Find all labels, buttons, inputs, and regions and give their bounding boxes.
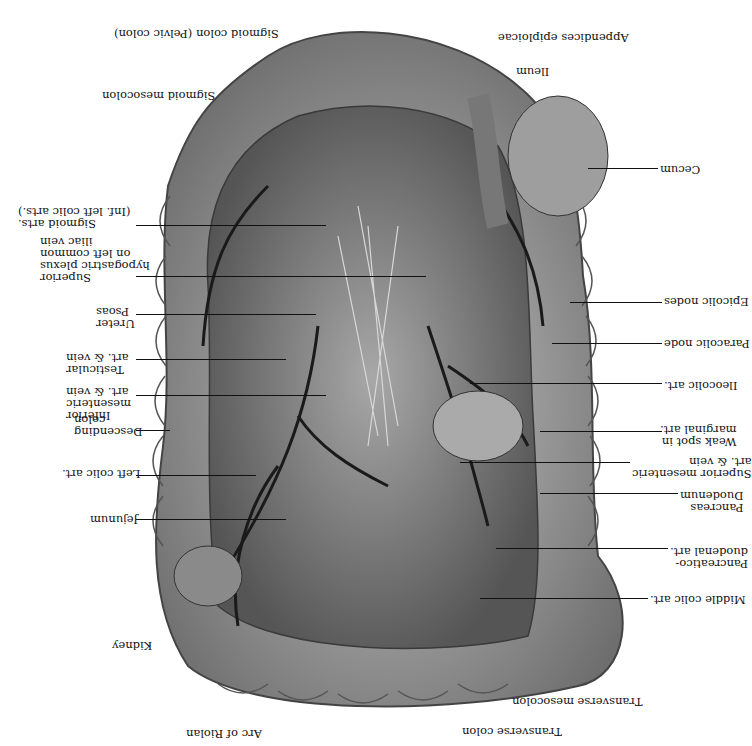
leader-descending-colon [136,430,170,431]
leader-sigmoid-arts [136,225,326,226]
label-descending-colon: Descending colon [74,414,142,438]
label-weak-spot: Weak spot in marginal art. [660,424,737,448]
label-paracolic-node: Paracolic node [664,338,750,350]
label-sigmoid-arts: Sigmoid arts. (Inf. left colic arts.) [18,206,130,230]
leader-left-colic-art [136,475,256,476]
leader-jejunum [136,519,286,520]
label-ureter-psoas: Ureter Psoas [96,306,135,330]
leader-ileocolic-art [470,383,662,384]
leader-weak-spot [540,431,662,432]
leader-inferior-mesenteric [136,395,326,396]
label-left-colic-art: Left colic art. [62,468,140,480]
label-sigmoid-mesocolon: Sigmoid mesocolon [102,90,215,102]
leader-testicular [136,359,286,360]
label-superior-hypogastric-plexus: Superior hypogastric plexus on left comm… [40,236,150,284]
label-superior-mesenteric: Superior mesenteric art. & vein [632,456,752,480]
leader-ureter-psoas [136,314,316,315]
leader-middle-colic [480,598,648,599]
label-ileocolic-art: Ileocolic art. [664,380,737,392]
leader-superior-hypogastric [136,276,426,277]
label-transverse-colon: Transverse colon [462,726,562,738]
label-jejunum: Jejunum [90,514,138,526]
label-arc-of-riolan: Arc of Riolan [186,728,262,740]
label-kidney: Kidney [112,640,152,652]
label-middle-colic-art: Middle colic art. [650,594,746,606]
leader-superior-mesenteric [460,462,630,463]
label-pancreaticoduodenal-art: Pancreatico- duodenal art. [670,546,748,570]
label-testicular: Testicular art. & vein [66,352,129,376]
label-ileum: Ileum [516,66,549,78]
label-transverse-mesocolon: Transverse mesocolon [512,696,642,708]
label-appendices-epiploicae: Appendices epiploicae [498,32,629,44]
leader-cecum [588,168,658,169]
label-epicolic-nodes: Epicolic nodes [664,296,749,308]
leader-pancreas [540,493,678,494]
label-cecum: Cecum [660,164,700,176]
leader-epicolic-nodes [570,302,662,303]
leader-paracolic-node [552,343,662,344]
leader-pancreaticoduodenal [496,548,668,549]
label-pancreas-duodenum: Pancreas Duodenum [680,490,743,514]
label-sigmoid-colon: Sigmoid colon (Pelvic colon) [114,28,279,40]
